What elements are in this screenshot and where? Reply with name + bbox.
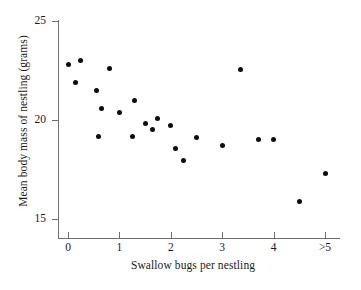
- x-tick-label: 4: [259, 241, 289, 253]
- y-tick-label: 25: [18, 15, 46, 26]
- x-axis-label: Swallow bugs per nestling: [58, 259, 328, 271]
- data-point: [194, 135, 199, 140]
- data-point: [238, 67, 243, 72]
- x-tick-mark: [171, 232, 172, 238]
- data-point: [168, 123, 173, 128]
- clipped-margin-text: [352, 178, 361, 240]
- x-tick-mark: [325, 232, 326, 238]
- x-tick-label: 1: [104, 241, 134, 253]
- data-point: [66, 62, 71, 67]
- x-tick-label: 2: [156, 241, 186, 253]
- x-tick-label: 3: [207, 241, 237, 253]
- data-point: [78, 58, 83, 63]
- data-point: [96, 134, 101, 139]
- data-point: [256, 137, 261, 142]
- data-point: [297, 199, 302, 204]
- data-point: [132, 98, 137, 103]
- y-tick-mark: [52, 219, 58, 220]
- y-tick-label: 15: [18, 213, 46, 224]
- data-point: [155, 116, 160, 121]
- data-point: [107, 66, 112, 71]
- x-tick-label: 0: [53, 241, 83, 253]
- x-tick-mark: [119, 232, 120, 238]
- data-point: [220, 143, 225, 148]
- data-point: [181, 158, 186, 163]
- data-point: [143, 121, 148, 126]
- y-tick-label: 20: [18, 114, 46, 125]
- data-point: [271, 137, 276, 142]
- x-tick-mark: [222, 232, 223, 238]
- x-tick-label: >5: [310, 241, 340, 253]
- y-tick-mark: [52, 120, 58, 121]
- data-point: [323, 171, 328, 176]
- data-point: [117, 110, 122, 115]
- data-point: [150, 127, 155, 132]
- data-point: [73, 80, 78, 85]
- data-point: [94, 88, 99, 93]
- y-tick-mark: [52, 21, 58, 22]
- x-tick-mark: [68, 232, 69, 238]
- y-axis-line: [58, 20, 59, 239]
- x-tick-mark: [274, 232, 275, 238]
- x-axis-line: [58, 238, 340, 239]
- data-point: [173, 146, 178, 151]
- scatter-plot-figure: Mean body mass of nestling (grams) 15202…: [0, 0, 361, 290]
- data-point: [130, 134, 135, 139]
- data-point: [99, 106, 104, 111]
